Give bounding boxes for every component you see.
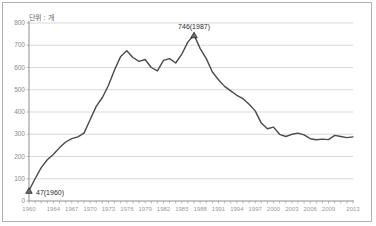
x-tick-label: 1997	[249, 206, 263, 212]
x-tick-label: 2013	[346, 206, 360, 212]
y-tick-label: 400	[14, 108, 25, 115]
x-tick-label: 1967	[65, 206, 79, 212]
x-tick-label: 1973	[102, 206, 116, 212]
y-tick-label: 700	[14, 41, 25, 48]
line-chart: 0100200300400500600700800196019641967197…	[3, 3, 372, 221]
y-tick-label: 600	[14, 64, 25, 71]
y-tick-label: 300	[14, 130, 25, 137]
chart-frame: 단위 : 개 010020030040050060070080019601964…	[2, 2, 372, 222]
x-tick-label: 1988	[193, 206, 207, 212]
y-tick-label: 100	[14, 175, 25, 182]
annotation-label-1960: 47(1960)	[36, 189, 64, 197]
x-tick-label: 1960	[22, 206, 36, 212]
x-tick-label: 1985	[175, 206, 189, 212]
annotation-marker-1987	[191, 32, 197, 38]
x-tick-label: 1994	[230, 206, 244, 212]
y-tick-label: 200	[14, 153, 25, 160]
annotation-marker-1960	[26, 188, 32, 194]
y-tick-label: 500	[14, 86, 25, 93]
annotation-label-1987: 746(1987)	[178, 23, 210, 31]
y-tick-label: 800	[14, 19, 25, 26]
x-tick-label: 1982	[157, 206, 171, 212]
y-tick-label: 0	[21, 197, 25, 204]
x-tick-label: 2006	[304, 206, 318, 212]
x-tick-label: 1979	[138, 206, 152, 212]
x-tick-label: 2003	[285, 206, 299, 212]
x-tick-label: 2009	[322, 206, 336, 212]
x-tick-label: 2000	[267, 206, 281, 212]
x-tick-label: 1991	[212, 206, 226, 212]
x-tick-label: 1976	[120, 206, 134, 212]
x-tick-label: 1964	[47, 206, 61, 212]
x-tick-label: 1970	[83, 206, 97, 212]
data-series-line	[29, 35, 353, 191]
